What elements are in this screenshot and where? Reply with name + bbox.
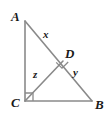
vertex-label-c: C [11, 96, 20, 109]
geometry-figure: A B C D x y z [0, 0, 109, 118]
segment-cd [25, 61, 63, 101]
segment-label-y: y [73, 67, 78, 78]
segment-label-x: x [43, 29, 49, 40]
vertex-label-b: B [95, 98, 104, 111]
vertex-label-d: D [65, 47, 74, 60]
vertex-label-a: A [11, 10, 20, 23]
segment-label-z: z [33, 69, 37, 80]
segment-ab [25, 21, 92, 101]
